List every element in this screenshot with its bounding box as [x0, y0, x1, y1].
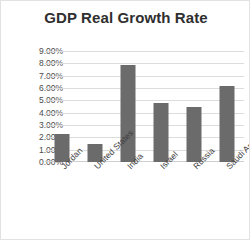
bar[interactable]: [220, 86, 235, 162]
bar-series: [45, 51, 244, 162]
bar-slot: [178, 51, 211, 162]
chart-title: GDP Real Growth Rate: [1, 9, 250, 26]
bar[interactable]: [154, 103, 169, 162]
bar-slot: [78, 51, 111, 162]
bar-slot: [211, 51, 244, 162]
bar-slot: [145, 51, 178, 162]
x-axis-tick-labels: JordanUnited StatesIndiaIsraelRussiaSaud…: [45, 164, 244, 234]
chart-container: GDP Real Growth Rate 9.00%8.00%7.00%6.00…: [0, 0, 250, 240]
bar-slot: [45, 51, 78, 162]
y-axis-tick-labels: 9.00%8.00%7.00%6.00%5.00%4.00%3.00%2.00%…: [1, 51, 41, 162]
